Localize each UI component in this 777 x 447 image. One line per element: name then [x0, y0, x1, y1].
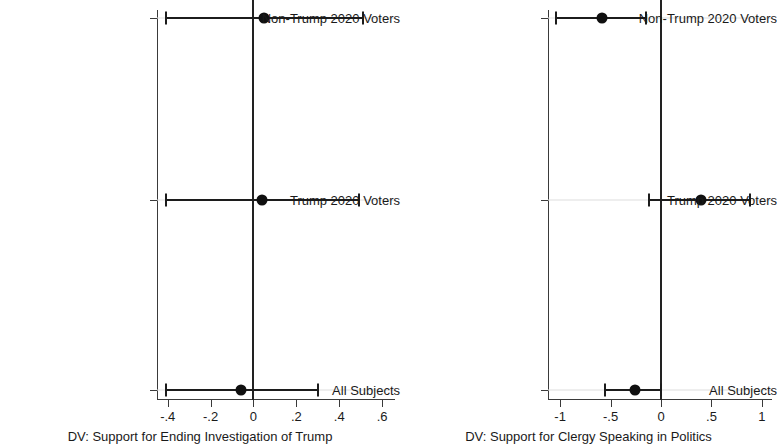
x-axis-title-right: DV: Support for Clergy Speaking in Polit… — [400, 430, 777, 443]
y-axis-tick-label: All Subjects — [634, 384, 777, 397]
y-axis-tick-mark — [541, 390, 548, 391]
x-axis-tick-label: .5 — [706, 410, 717, 423]
x-axis-tick-label: -.4 — [160, 410, 175, 423]
x-axis-tick-mark — [253, 400, 254, 407]
x-axis-title-left: DV: Support for Ending Investigation of … — [0, 430, 400, 443]
coefficient-plot-figure: DV: Support for Ending Investigation of … — [0, 0, 777, 447]
x-axis-line — [157, 399, 395, 400]
x-axis-tick-label: -.2 — [203, 410, 218, 423]
y-axis-line — [157, 10, 158, 400]
x-axis-tick-label: -.5 — [603, 410, 618, 423]
y-axis-tick-mark — [150, 390, 157, 391]
point-estimate-marker — [597, 13, 608, 24]
ci-lower-cap — [604, 384, 606, 397]
x-axis-tick-mark — [339, 400, 340, 407]
x-axis-tick-mark — [661, 400, 662, 407]
ci-lower-cap — [165, 384, 167, 397]
y-axis-tick-label: Trump 2020 Voters — [248, 194, 400, 207]
x-axis-tick-label: .2 — [291, 410, 302, 423]
x-axis-tick-label: 0 — [250, 410, 257, 423]
y-axis-line — [548, 10, 549, 400]
y-axis-tick-label: Non-Trump 2020 Voters — [248, 12, 400, 25]
x-axis-tick-label: 1 — [758, 410, 765, 423]
panel-right: DV: Support for Clergy Speaking in Polit… — [400, 0, 777, 447]
x-axis-tick-label: -1 — [554, 410, 566, 423]
x-axis-tick-label: 0 — [657, 410, 664, 423]
x-axis-tick-label: .6 — [377, 410, 388, 423]
ci-lower-cap — [165, 12, 167, 25]
ci-lower-cap — [555, 12, 557, 25]
x-axis-tick-mark — [168, 400, 169, 407]
y-axis-tick-label: Trump 2020 Voters — [634, 194, 777, 207]
x-axis-tick-label: .4 — [334, 410, 345, 423]
y-axis-tick-label: Non-Trump 2020 Voters — [634, 12, 777, 25]
x-axis-tick-mark — [611, 400, 612, 407]
y-axis-tick-mark — [541, 18, 548, 19]
y-axis-tick-label: All Subjects — [248, 384, 400, 397]
point-estimate-marker — [235, 385, 246, 396]
x-axis-tick-mark — [560, 400, 561, 407]
x-axis-tick-mark — [211, 400, 212, 407]
y-axis-tick-mark — [541, 200, 548, 201]
x-axis-tick-mark — [382, 400, 383, 407]
panel-left: DV: Support for Ending Investigation of … — [0, 0, 400, 447]
y-axis-tick-mark — [150, 200, 157, 201]
x-axis-tick-mark — [296, 400, 297, 407]
y-axis-tick-mark — [150, 18, 157, 19]
ci-lower-cap — [165, 194, 167, 207]
x-axis-tick-mark — [711, 400, 712, 407]
x-axis-tick-mark — [762, 400, 763, 407]
